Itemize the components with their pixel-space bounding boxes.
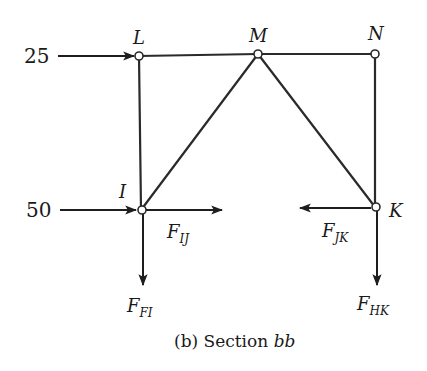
member-MK xyxy=(258,54,375,207)
joint-label-K: K xyxy=(388,200,404,221)
force-label-FHK: FHK xyxy=(356,293,390,318)
force-labels: FIJ FFI FJK FHK xyxy=(126,220,390,320)
joint-M xyxy=(254,50,262,58)
member-forces xyxy=(143,208,377,285)
member-IM xyxy=(141,54,258,210)
joint-N xyxy=(371,50,379,58)
load-50-label: 50 xyxy=(26,198,51,222)
joint-I xyxy=(138,206,146,214)
joint-L xyxy=(135,52,143,60)
force-label-FFI: FFI xyxy=(126,295,153,320)
joint-label-M: M xyxy=(248,25,268,46)
truss-joints xyxy=(135,50,380,214)
force-label-FJK: FJK xyxy=(321,220,349,245)
joint-label-L: L xyxy=(132,27,145,48)
load-25-label: 25 xyxy=(24,44,49,68)
member-LM xyxy=(139,54,258,56)
truss-members xyxy=(139,54,375,210)
member-LI xyxy=(139,56,141,210)
force-label-FIJ: FIJ xyxy=(166,221,190,246)
joint-K xyxy=(372,203,380,211)
joint-label-I: I xyxy=(118,181,127,202)
joint-label-N: N xyxy=(367,23,385,44)
figure-caption: (b) Section bb xyxy=(174,331,295,351)
truss-section-diagram: 25 50 L M N I K FIJ FFI FJK xyxy=(0,0,427,371)
